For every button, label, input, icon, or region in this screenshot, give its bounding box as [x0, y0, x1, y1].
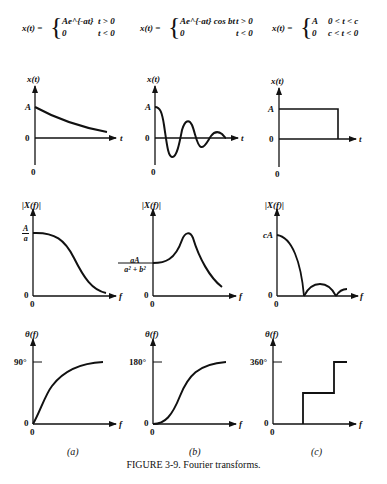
ylabel-time-b: x(t) [147, 74, 160, 84]
plot-phase-b [153, 339, 236, 424]
ytick-A-over-a: A a [22, 224, 29, 243]
ylabel-phase-b: θ(f) [145, 329, 159, 339]
ylabel-time-a: x(t) [27, 74, 40, 84]
ytick-A: A [268, 104, 274, 114]
ytick-cA: cA [263, 230, 273, 240]
plot-phase-c [273, 339, 356, 424]
panel-label-b: (b) [189, 446, 201, 457]
ylabel-magnitude-c: |X(f)| [265, 200, 284, 210]
xlabel-t: t [120, 133, 123, 143]
origin-zero: 0 [24, 418, 29, 428]
origin-zero-bottom: 0 [150, 299, 155, 309]
ytick-A: A [145, 102, 151, 112]
sinc-side-lobe [304, 284, 336, 296]
ytick-aA-over-a2-plus-b2: aA a² + b² [118, 256, 152, 274]
origin-zero-bottom: 0 [150, 427, 155, 437]
ylabel-magnitude-a: |X(f)| [22, 200, 41, 210]
sinc-main-lobe [277, 235, 304, 296]
ytick-180-degrees: 180° [129, 357, 146, 367]
xlabel-f: f [119, 419, 122, 429]
fraction-denominator: a² + b² [118, 265, 152, 274]
plot-magnitude-c [277, 209, 358, 296]
figure-caption: FIGURE 3-9. Fourier transforms. [0, 459, 387, 470]
origin-zero-bottom: 0 [270, 427, 275, 437]
ytick-90-degrees: 90° [14, 357, 27, 367]
magnitude-curve [33, 233, 106, 293]
decaying-exponential-curve [35, 107, 107, 132]
fraction-denominator: a [22, 234, 29, 243]
xlabel-t: t [241, 133, 244, 143]
panel-label-a: (a) [67, 446, 79, 457]
xlabel-f: f [239, 419, 242, 429]
origin-zero: 0 [144, 418, 149, 428]
ytick-A: A [25, 102, 31, 112]
origin-zero-bottom: 0 [274, 299, 279, 309]
ylabel-phase-a: θ(f) [25, 329, 39, 339]
rectangular-pulse [279, 109, 338, 139]
ylabel-time-c: x(t) [271, 76, 284, 86]
plot-time-b [155, 86, 238, 165]
phase-staircase [303, 362, 347, 424]
xlabel-f: f [239, 291, 242, 301]
origin-zero-bottom: 0 [30, 299, 35, 309]
fraction-numerator: aA [118, 256, 152, 265]
fraction-numerator: A [22, 224, 29, 234]
origin-zero-bottom: 0 [151, 167, 156, 177]
phase-curve [33, 362, 103, 424]
origin-zero: 0 [264, 418, 269, 428]
origin-zero-bottom: 0 [275, 169, 280, 179]
xlabel-f: f [119, 291, 122, 301]
xlabel-f: f [360, 291, 363, 301]
fourier-transform-figure [0, 0, 387, 484]
plot-time-a [35, 86, 116, 165]
plot-magnitude-a [33, 209, 116, 296]
phase-s-curve [153, 362, 226, 424]
origin-zero: 0 [145, 133, 150, 143]
origin-zero: 0 [144, 290, 149, 300]
sinc-tail [336, 289, 347, 296]
ylabel-phase-c: θ(f) [265, 329, 279, 339]
origin-zero: 0 [25, 133, 30, 143]
xlabel-t: t [359, 134, 362, 144]
ylabel-magnitude-b: |X(f)| [142, 200, 161, 210]
plot-phase-a [33, 339, 116, 424]
plot-time-c [279, 88, 356, 167]
origin-zero-bottom: 0 [30, 427, 35, 437]
damped-cosine-curve [155, 107, 226, 157]
resonant-magnitude-curve [153, 233, 222, 287]
origin-zero: 0 [269, 134, 274, 144]
plot-magnitude-b [118, 209, 236, 296]
panel-label-c: (c) [311, 446, 322, 457]
origin-zero: 0 [24, 290, 29, 300]
origin-zero: 0 [268, 290, 273, 300]
ytick-360-degrees: 360° [250, 357, 267, 367]
origin-zero-bottom: 0 [31, 167, 36, 177]
xlabel-f: f [359, 419, 362, 429]
